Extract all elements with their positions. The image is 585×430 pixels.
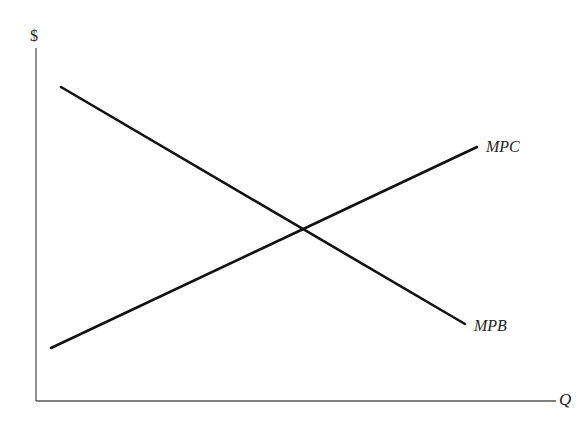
mpb-label: MPB — [473, 317, 507, 334]
mpb-curve — [61, 87, 465, 324]
y-axis-label: $ — [30, 27, 38, 44]
x-axis-label: Q — [559, 390, 571, 409]
diagram: $ Q MPC MPB — [0, 0, 585, 430]
mpc-curve — [51, 147, 477, 348]
mpc-label: MPC — [485, 138, 520, 155]
